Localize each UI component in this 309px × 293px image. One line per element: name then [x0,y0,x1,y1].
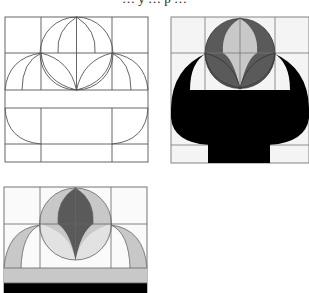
figure-canvas [0,0,309,293]
panel-construction-grid [5,17,148,162]
panel-filled-basket [171,17,309,163]
panel-filled-tiara [4,187,147,293]
